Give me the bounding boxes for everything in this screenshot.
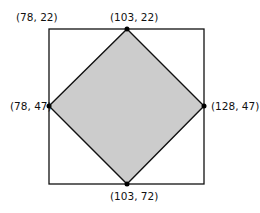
vertex-bottom: [125, 182, 130, 187]
diamond: [49, 29, 204, 184]
label-top-vertex: (103, 22): [110, 11, 158, 23]
label-top-left-corner: (78, 22): [16, 11, 58, 23]
label-right-vertex: (128, 47): [211, 100, 259, 112]
label-left-vertex: (78, 47): [10, 100, 52, 112]
label-bottom-vertex: (103, 72): [110, 190, 158, 202]
vertex-right: [202, 104, 207, 109]
vertex-top: [125, 27, 130, 32]
